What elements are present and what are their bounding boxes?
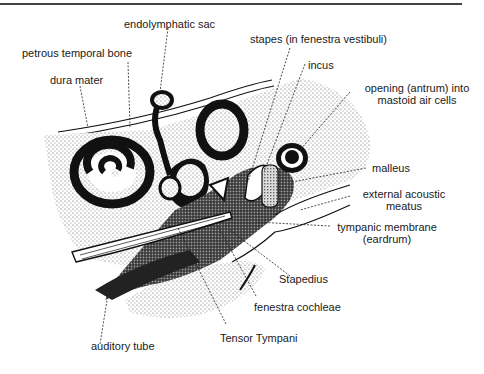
label-antrum: opening (antrum) into mastoid air cells [352, 82, 482, 106]
label-stapes: stapes (in fenestra vestibuli) [250, 33, 387, 45]
label-malleus: malleus [372, 162, 410, 174]
label-external-meatus: external acoustic meatus [354, 188, 454, 212]
label-endolymphatic-sac: endolymphatic sac [124, 18, 215, 30]
label-petrous-temporal-bone: petrous temporal bone [22, 47, 132, 59]
label-fenestra-cochleae: fenestra cochleae [254, 301, 341, 313]
label-dura-mater: dura mater [50, 74, 103, 86]
label-stapedius: Stapedius [279, 273, 328, 285]
label-tensor-tympani: Tensor Tympani [220, 332, 297, 344]
label-tympanic-membrane: tympanic membrane (eardrum) [332, 221, 442, 245]
label-tympanic-line2: (eardrum) [332, 233, 442, 245]
label-tympanic-line1: tympanic membrane [332, 221, 442, 233]
label-external-meatus-line2: meatus [354, 200, 454, 212]
label-incus: incus [308, 59, 334, 71]
mastoid-antrum [276, 143, 308, 173]
label-external-meatus-line1: external acoustic [354, 188, 454, 200]
label-auditory-tube: auditory tube [91, 340, 155, 352]
label-antrum-line1: opening (antrum) into [352, 82, 482, 94]
label-antrum-line2: mastoid air cells [352, 94, 482, 106]
